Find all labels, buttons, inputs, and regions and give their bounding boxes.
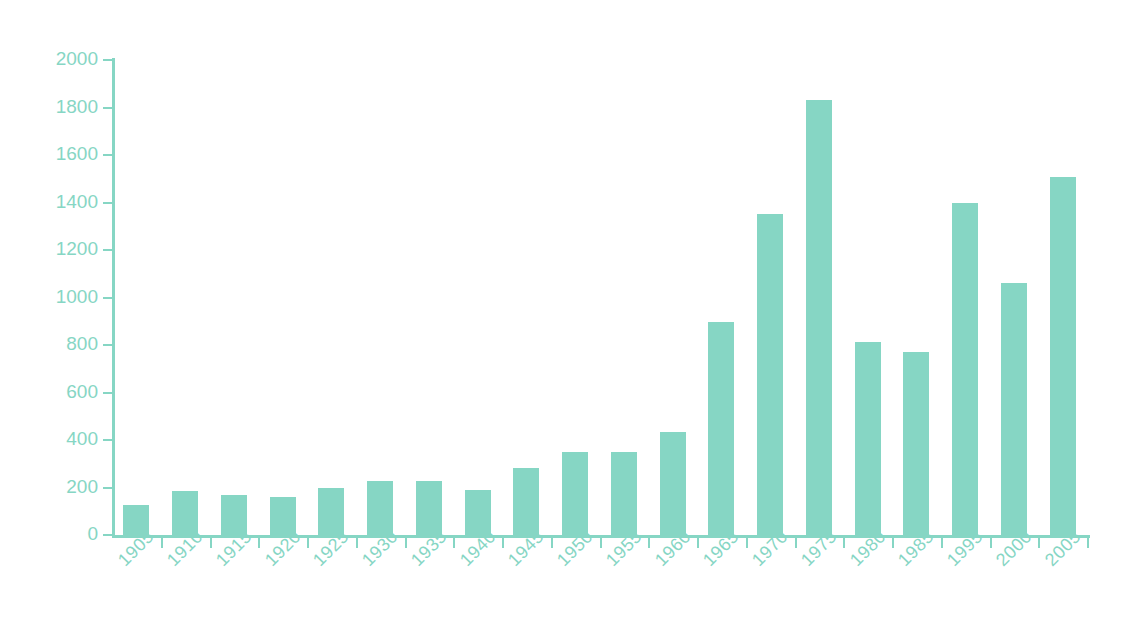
bar-1970 <box>757 214 783 535</box>
x-tick-1985 <box>941 537 943 548</box>
y-tick-label-1400: 1400 <box>22 191 98 213</box>
x-tick-1960 <box>697 537 699 548</box>
bar-1965 <box>708 322 734 535</box>
x-tick-1905 <box>161 537 163 548</box>
x-tick-1995 <box>990 537 992 548</box>
bar-1995 <box>952 203 978 535</box>
x-tick-1910 <box>210 537 212 548</box>
y-tick-label-800: 800 <box>22 333 98 355</box>
x-tick-1935 <box>453 537 455 548</box>
y-tick-label-1200: 1200 <box>22 238 98 260</box>
y-tick-label-1600: 1600 <box>22 143 98 165</box>
bar-1960 <box>660 432 686 535</box>
x-tick-1930 <box>405 537 407 548</box>
bar-1980 <box>855 342 881 535</box>
y-tick-label-1000: 1000 <box>22 286 98 308</box>
bar-2005 <box>1050 177 1076 535</box>
bar-1945 <box>513 468 539 535</box>
y-tick-label-400: 400 <box>22 428 98 450</box>
x-tick-1965 <box>746 537 748 548</box>
y-tick-label-0: 0 <box>22 523 98 545</box>
x-tick-1950 <box>600 537 602 548</box>
x-tick-1940 <box>502 537 504 548</box>
x-tick-1920 <box>307 537 309 548</box>
bar-1975 <box>806 100 832 535</box>
x-tick-1980 <box>892 537 894 548</box>
bar-2000 <box>1001 283 1027 535</box>
x-tick-1925 <box>356 537 358 548</box>
bar-1955 <box>611 452 637 535</box>
x-tick-1955 <box>648 537 650 548</box>
y-tick-label-200: 200 <box>22 476 98 498</box>
bar-1950 <box>562 452 588 535</box>
x-tick-2000 <box>1038 537 1040 548</box>
x-tick-2005 <box>1087 537 1089 548</box>
y-tick-label-2000: 2000 <box>22 48 98 70</box>
x-tick-1915 <box>258 537 260 548</box>
bars-layer <box>112 60 1087 535</box>
y-tick-label-600: 600 <box>22 381 98 403</box>
x-tick-1945 <box>551 537 553 548</box>
y-tick-label-1800: 1800 <box>22 96 98 118</box>
x-tick-1975 <box>843 537 845 548</box>
x-tick-1970 <box>795 537 797 548</box>
bar-chart: 0200400600800100012001400160018002000 19… <box>0 0 1129 636</box>
bar-1985 <box>903 352 929 535</box>
